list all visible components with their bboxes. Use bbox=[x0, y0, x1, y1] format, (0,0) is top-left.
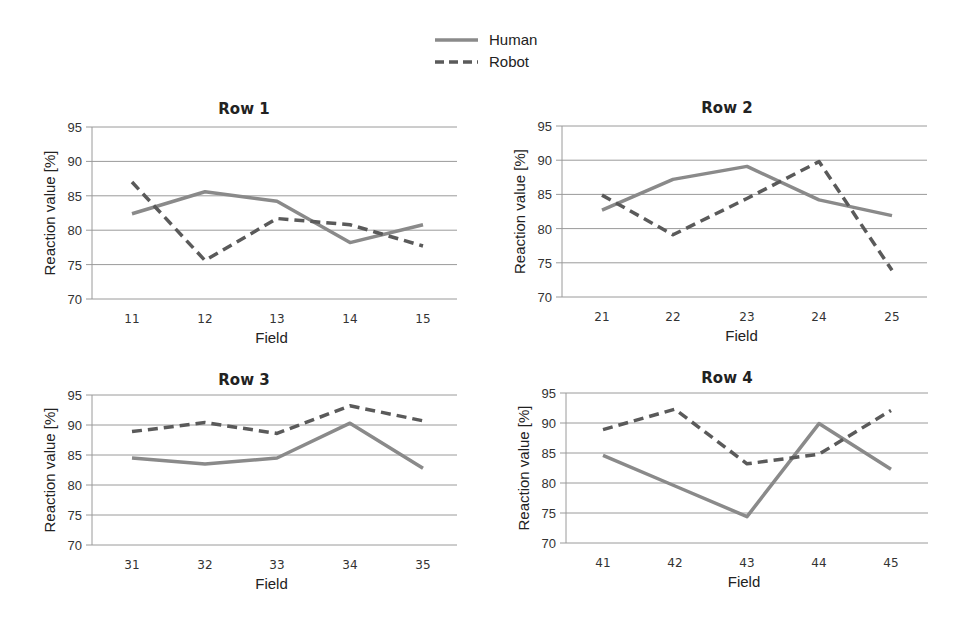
y-tick-label: 90 bbox=[542, 416, 556, 431]
x-tick-label: 11 bbox=[124, 312, 139, 326]
series-line-robot bbox=[603, 409, 891, 464]
y-axis-label: Reaction value [%] bbox=[41, 150, 58, 275]
y-tick-label: 70 bbox=[538, 290, 552, 305]
y-tick-label: 80 bbox=[538, 222, 552, 237]
panel-title: Row 3 bbox=[218, 371, 269, 389]
series-line-robot bbox=[602, 162, 892, 271]
y-tick-label: 95 bbox=[68, 388, 82, 403]
y-tick-label: 95 bbox=[538, 119, 552, 134]
x-tick-label: 33 bbox=[269, 558, 284, 572]
series-line-human bbox=[132, 423, 423, 468]
x-axis-label: Field bbox=[725, 327, 758, 344]
series-line-robot bbox=[132, 406, 423, 434]
chart-panel-row-1: Row 1 7075808590951112131415FieldReactio… bbox=[41, 100, 457, 346]
y-axis-label: Reaction value [%] bbox=[41, 407, 58, 532]
y-tick-label: 80 bbox=[68, 223, 82, 238]
series-line-human bbox=[603, 424, 891, 517]
y-tick-label: 75 bbox=[538, 256, 552, 271]
y-tick-label: 90 bbox=[538, 153, 552, 168]
x-tick-label: 24 bbox=[811, 310, 826, 324]
x-tick-label: 21 bbox=[594, 310, 609, 324]
legend-robot-label: Robot bbox=[489, 53, 530, 70]
x-tick-label: 13 bbox=[269, 312, 284, 326]
series-line-robot bbox=[132, 182, 423, 261]
x-axis-label: Field bbox=[728, 573, 761, 590]
x-tick-label: 45 bbox=[883, 556, 898, 570]
x-tick-label: 41 bbox=[595, 556, 610, 570]
panel-title: Row 1 bbox=[218, 100, 269, 118]
y-tick-label: 85 bbox=[68, 448, 82, 463]
panel-title: Row 4 bbox=[701, 369, 752, 387]
y-tick-label: 95 bbox=[68, 120, 82, 135]
x-axis-label: Field bbox=[255, 575, 288, 592]
x-tick-label: 44 bbox=[811, 556, 826, 570]
x-tick-label: 12 bbox=[197, 312, 212, 326]
x-axis-label: Field bbox=[255, 329, 288, 346]
y-axis-label: Reaction value [%] bbox=[515, 405, 532, 530]
y-tick-label: 75 bbox=[68, 508, 82, 523]
y-tick-label: 85 bbox=[68, 189, 82, 204]
y-tick-label: 75 bbox=[68, 258, 82, 273]
x-tick-label: 25 bbox=[884, 310, 899, 324]
x-tick-label: 35 bbox=[415, 558, 430, 572]
y-tick-label: 70 bbox=[68, 292, 82, 307]
legend-human-label: Human bbox=[489, 31, 537, 48]
y-tick-label: 90 bbox=[68, 154, 82, 169]
legend: Human Robot bbox=[435, 31, 537, 70]
y-tick-label: 85 bbox=[542, 446, 556, 461]
y-tick-label: 90 bbox=[68, 418, 82, 433]
x-tick-label: 15 bbox=[415, 312, 430, 326]
y-tick-label: 95 bbox=[542, 386, 556, 401]
y-tick-label: 80 bbox=[68, 478, 82, 493]
chart-panel-row-3: Row 3 7075808590953132333435FieldReactio… bbox=[41, 371, 457, 592]
y-tick-label: 80 bbox=[542, 476, 556, 491]
x-tick-label: 23 bbox=[739, 310, 754, 324]
chart-panel-row-4: Row 4 7075808590954142434445FieldReactio… bbox=[515, 369, 928, 590]
x-tick-label: 34 bbox=[342, 558, 357, 572]
panel-title: Row 2 bbox=[701, 99, 752, 117]
figure: Human Robot Row 1 7075808590951112131415… bbox=[0, 0, 963, 621]
y-tick-label: 85 bbox=[538, 187, 552, 202]
chart-panel-row-2: Row 2 7075808590952122232425FieldReactio… bbox=[511, 99, 927, 344]
y-tick-label: 75 bbox=[542, 506, 556, 521]
y-tick-label: 70 bbox=[542, 536, 556, 551]
x-tick-label: 42 bbox=[667, 556, 682, 570]
x-tick-label: 43 bbox=[739, 556, 754, 570]
x-tick-label: 32 bbox=[197, 558, 212, 572]
y-axis-label: Reaction value [%] bbox=[511, 149, 528, 274]
x-tick-label: 31 bbox=[124, 558, 139, 572]
x-tick-label: 14 bbox=[342, 312, 357, 326]
x-tick-label: 22 bbox=[665, 310, 680, 324]
series-line-human bbox=[602, 166, 892, 215]
y-tick-label: 70 bbox=[68, 538, 82, 553]
